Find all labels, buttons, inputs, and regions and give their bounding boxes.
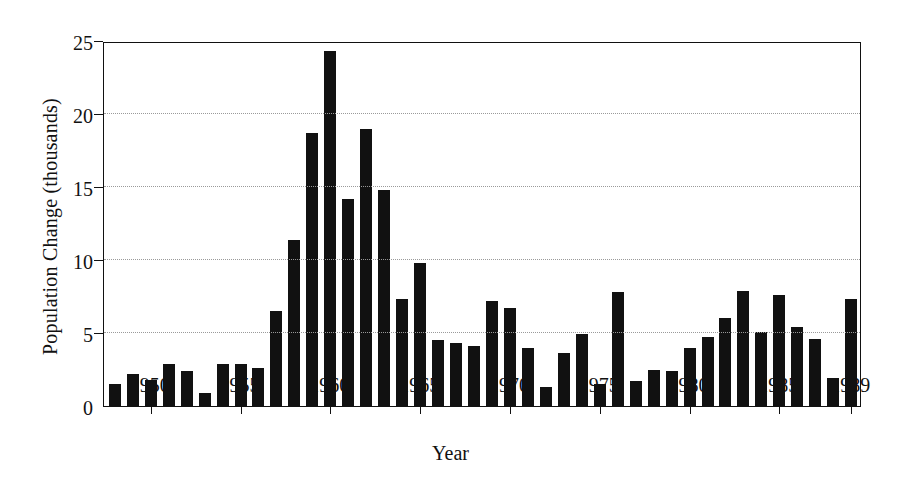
x-tick-label-1965: 1965 xyxy=(384,374,454,397)
gridline-20 xyxy=(104,113,860,114)
x-tick-1965 xyxy=(420,406,421,414)
x-tick-label-1980: 1980 xyxy=(654,374,724,397)
y-tick-15 xyxy=(94,187,103,188)
gridline-5 xyxy=(104,332,860,333)
bar-series xyxy=(104,43,860,406)
gridline-10 xyxy=(104,259,860,260)
x-tick-label-1955: 1955 xyxy=(205,374,275,397)
chart-figure: Population Change (thousands) 0510152025… xyxy=(0,0,901,489)
x-axis-title: Year xyxy=(0,442,901,465)
x-tick-1989 xyxy=(851,406,852,414)
plot-area xyxy=(103,42,861,407)
x-tick-1950 xyxy=(151,406,152,414)
x-tick-1955 xyxy=(241,406,242,414)
y-tick-10 xyxy=(94,260,103,261)
x-tick-label-1975: 1975 xyxy=(564,374,634,397)
y-tick-20 xyxy=(94,114,103,115)
y-tick-25 xyxy=(94,41,103,42)
gridline-15 xyxy=(104,186,860,187)
y-tick-5 xyxy=(94,333,103,334)
bar-1960 xyxy=(324,51,336,406)
x-tick-1975 xyxy=(600,406,601,414)
x-tick-1985 xyxy=(779,406,780,414)
bar-1959 xyxy=(306,133,318,406)
x-tick-label-1950: 1950 xyxy=(115,374,185,397)
x-tick-1970 xyxy=(510,406,511,414)
y-axis-title: Population Change (thousands) xyxy=(39,27,62,427)
x-tick-1960 xyxy=(330,406,331,414)
x-tick-label-1985: 1985 xyxy=(743,374,813,397)
x-tick-label-1989: 1989 xyxy=(815,374,885,397)
x-tick-1980 xyxy=(690,406,691,414)
bar-1962 xyxy=(360,129,372,406)
x-tick-label-1960: 1960 xyxy=(294,374,364,397)
x-tick-label-1970: 1970 xyxy=(474,374,544,397)
